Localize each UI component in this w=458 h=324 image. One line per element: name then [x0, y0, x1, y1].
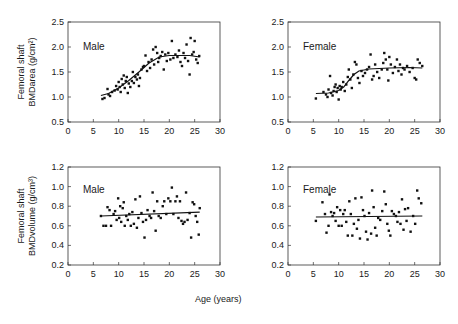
- x-tick-label: 15: [359, 269, 369, 279]
- data-point: [106, 88, 108, 90]
- data-point: [143, 236, 145, 238]
- data-point: [130, 225, 132, 227]
- data-point: [333, 86, 335, 88]
- data-point: [154, 230, 156, 232]
- y-tick-label: 0.2: [271, 260, 284, 270]
- data-point: [126, 76, 128, 78]
- data-point: [119, 205, 121, 207]
- data-point: [118, 217, 120, 219]
- data-point: [326, 96, 328, 98]
- data-point: [388, 230, 390, 232]
- data-point: [321, 201, 323, 203]
- y-tick-label: 0.4: [51, 240, 64, 250]
- data-point: [132, 71, 134, 73]
- panel-male-area: 0510152025300.51.01.52.02.5MaleFemoral s…: [16, 17, 225, 136]
- data-point: [105, 225, 107, 227]
- data-point: [331, 94, 333, 96]
- x-tick-label: 5: [311, 126, 316, 136]
- data-point: [157, 61, 159, 63]
- y-tick-label: 2.0: [271, 42, 284, 52]
- data-point: [315, 97, 317, 99]
- data-point: [403, 68, 405, 70]
- data-point: [127, 219, 129, 221]
- data-point: [188, 73, 190, 75]
- y-tick-label: 1.2: [51, 162, 64, 172]
- data-point: [366, 238, 368, 240]
- data-point: [176, 56, 178, 58]
- data-point: [138, 85, 140, 87]
- data-point: [171, 40, 173, 42]
- data-point: [133, 82, 135, 84]
- data-point: [142, 221, 144, 223]
- data-point: [369, 53, 371, 55]
- data-point: [106, 206, 108, 208]
- data-point: [136, 227, 138, 229]
- y-tick-label: 0.5: [271, 117, 284, 127]
- data-point: [124, 225, 126, 227]
- data-point: [342, 81, 344, 83]
- data-point: [172, 57, 174, 59]
- data-point: [109, 95, 111, 97]
- data-point: [150, 217, 152, 219]
- data-point: [362, 209, 364, 211]
- panel-female-volume: 0510152025300.20.40.60.81.01.2Female: [271, 162, 445, 279]
- data-point: [186, 219, 188, 221]
- x-tick-label: 30: [435, 126, 445, 136]
- data-point: [115, 219, 117, 221]
- data-point: [381, 210, 383, 212]
- data-point: [179, 61, 181, 63]
- x-tick-label: 10: [114, 269, 124, 279]
- data-point: [357, 77, 359, 79]
- data-point: [176, 195, 178, 197]
- data-point: [355, 63, 357, 65]
- x-tick-label: 20: [164, 269, 174, 279]
- data-point: [371, 78, 373, 80]
- x-tick-label: 20: [384, 269, 394, 279]
- data-point: [146, 209, 148, 211]
- x-tick-label: 25: [190, 126, 200, 136]
- data-point: [171, 186, 173, 188]
- data-point: [345, 221, 347, 223]
- y-tick-label: 1.2: [271, 162, 284, 172]
- data-point: [190, 236, 192, 238]
- data-point: [402, 229, 404, 231]
- data-point: [334, 83, 336, 85]
- panel-label: Female: [303, 184, 337, 195]
- data-point: [379, 219, 381, 221]
- y-axis-label-line2: BMDarea (g/cm²): [27, 37, 37, 106]
- data-point: [156, 200, 158, 202]
- panel-label: Male: [83, 184, 105, 195]
- data-point: [145, 219, 147, 221]
- y-tick-label: 1.5: [271, 67, 284, 77]
- data-point: [387, 79, 389, 81]
- data-point: [184, 57, 186, 59]
- data-point: [420, 202, 422, 204]
- x-tick-label: 25: [410, 126, 420, 136]
- data-point: [359, 237, 361, 239]
- data-point: [362, 75, 364, 77]
- data-point: [177, 217, 179, 219]
- data-point: [368, 212, 370, 214]
- data-point: [115, 85, 117, 87]
- x-tick-label: 5: [311, 269, 316, 279]
- data-point: [163, 200, 165, 202]
- data-point: [324, 213, 326, 215]
- y-tick-label: 0.8: [271, 201, 284, 211]
- data-point: [370, 232, 372, 234]
- data-point: [102, 225, 104, 227]
- plot-frame: [68, 167, 220, 265]
- data-point: [123, 201, 125, 203]
- data-point: [129, 86, 131, 88]
- data-point: [167, 197, 169, 199]
- y-axis-label-line2: BMDvolume (g/cm³): [27, 176, 37, 256]
- data-point: [119, 91, 121, 93]
- plot-frame: [68, 22, 220, 122]
- y-tick-label: 1.0: [51, 92, 64, 102]
- data-point: [110, 225, 112, 227]
- data-point: [375, 234, 377, 236]
- x-tick-label: 0: [285, 126, 290, 136]
- data-point: [114, 210, 116, 212]
- data-point: [396, 58, 398, 60]
- data-point: [383, 52, 385, 54]
- data-point: [136, 78, 138, 80]
